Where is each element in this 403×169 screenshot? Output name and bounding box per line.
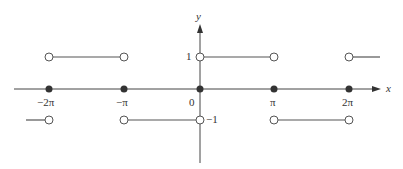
open-dot xyxy=(345,116,353,124)
y-axis-arrow-icon xyxy=(197,24,203,33)
x-tick-neg-2pi: −2π xyxy=(37,96,54,108)
open-dot xyxy=(45,53,53,61)
open-dot xyxy=(120,53,128,61)
x-tick-2pi: 2π xyxy=(342,96,353,108)
filled-dot xyxy=(46,86,53,93)
open-dot xyxy=(270,116,278,124)
open-dot xyxy=(120,116,128,124)
open-dot xyxy=(270,53,278,61)
y-tick-neg-one: −1 xyxy=(206,113,218,125)
filled-dot xyxy=(121,86,128,93)
x-tick-zero: 0 xyxy=(189,96,195,108)
y-axis-label: y xyxy=(196,10,201,22)
filled-dot xyxy=(197,86,204,93)
filled-dot xyxy=(346,86,353,93)
x-axis-arrow-icon xyxy=(372,86,381,92)
x-tick-neg-pi: −π xyxy=(116,96,128,108)
open-dot xyxy=(196,116,204,124)
open-dot xyxy=(196,53,204,61)
open-dot xyxy=(345,53,353,61)
square-wave-figure: x y −2π −π 0 π 2π 1 −1 xyxy=(0,0,403,169)
filled-dot xyxy=(271,86,278,93)
x-tick-pi: π xyxy=(270,96,276,108)
open-dot xyxy=(45,116,53,124)
x-axis-label: x xyxy=(386,82,391,94)
y-tick-one: 1 xyxy=(186,50,192,62)
plot-canvas xyxy=(0,0,403,169)
